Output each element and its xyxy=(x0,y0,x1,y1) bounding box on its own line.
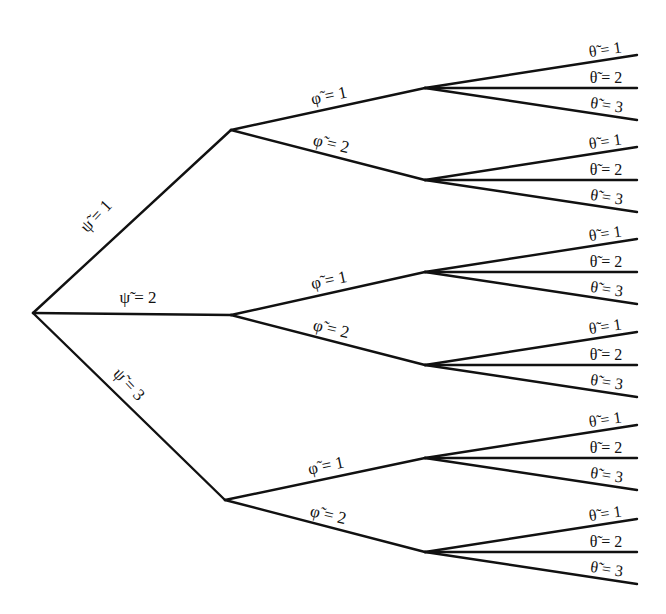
label-theta-2: θ̃ = 2 xyxy=(590,533,623,550)
label-theta-2: θ̃ = 2 xyxy=(590,346,623,363)
label-psi-1: ψ̃ = 1 xyxy=(76,196,115,236)
edge-psi-1 xyxy=(33,130,231,313)
tree-labels: ψ̃ = 1ψ̃ = 2ψ̃ = 3φ̃ = 1θ̃ = 1θ̃ = 2θ̃ =… xyxy=(76,38,624,579)
edge-psi-3 xyxy=(33,313,225,500)
label-theta-2: θ̃ = 2 xyxy=(590,161,623,178)
label-theta-2: θ̃ = 2 xyxy=(590,439,623,456)
label-theta-2: θ̃ = 2 xyxy=(590,69,623,86)
label-theta-2: θ̃ = 2 xyxy=(590,253,623,270)
edge-psi-2 xyxy=(33,313,231,315)
label-psi-2: ψ̃ = 2 xyxy=(119,288,156,307)
tree-diagram: ψ̃ = 1ψ̃ = 2ψ̃ = 3φ̃ = 1θ̃ = 1θ̃ = 2θ̃ =… xyxy=(0,0,666,614)
label-psi-3: ψ̃ = 3 xyxy=(109,364,148,404)
